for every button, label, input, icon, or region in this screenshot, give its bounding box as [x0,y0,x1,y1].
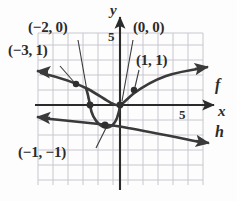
point-label-neg1-neg1: (−1, −1) [18,145,66,160]
point-label-neg3-1: (−3, 1) [8,43,48,58]
point-label-0-0: (0, 0) [133,20,164,35]
point-neg1-neg1 [102,122,109,129]
point-label-neg2-0: (−2, 0) [28,20,68,35]
point-neg2-0 [87,102,94,109]
graph-screenshot: (−2, 0) (−3, 1) (0, 0) (1, 1) (−1, −1) y… [0,0,237,201]
point-1-1 [131,87,137,93]
curve-h-left-arrow [37,117,50,118]
leader-lines [60,40,139,148]
y-axis-tick-5: 5 [108,30,114,43]
leader-neg1-neg1 [96,128,106,148]
leader-neg2-0 [78,40,89,102]
y-axis-label: y [110,3,116,18]
curve-f-right-arrow [195,67,208,69]
curve-label-h: h [215,124,224,140]
point-label-1-1: (1, 1) [136,53,167,68]
curve-f-left-arrow [37,71,48,72]
leader-0-0 [122,40,133,101]
point-0-0 [117,102,124,109]
leader-1-1 [135,70,139,87]
axis-lines [35,17,214,190]
x-axis-tick-5: 5 [179,108,185,121]
curve-label-f: f [215,77,220,93]
x-axis-label: x [218,104,225,119]
